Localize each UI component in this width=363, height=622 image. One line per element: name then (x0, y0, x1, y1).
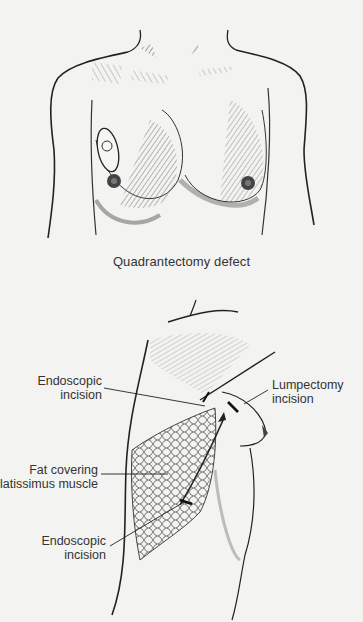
illustration-figure: Quadrantectomy defect (0, 0, 363, 622)
label-line: Lumpectomy (272, 378, 362, 392)
lateral-torso-illustration (0, 0, 363, 622)
label-fat-covering-latissimus: Fat covering latissimus muscle (0, 463, 98, 491)
label-endoscopic-incision-lower: Endoscopic incision (30, 534, 106, 562)
label-line: incision (30, 388, 102, 402)
label-line: Fat covering (0, 463, 98, 477)
label-line: Endoscopic (30, 374, 102, 388)
label-endoscopic-incision-upper: Endoscopic incision (30, 374, 102, 402)
label-line: Endoscopic (30, 534, 106, 548)
label-line: incision (272, 392, 362, 406)
label-line: latissimus muscle (0, 477, 98, 491)
label-line: incision (30, 548, 106, 562)
label-lumpectomy-incision: Lumpectomy incision (272, 378, 362, 406)
